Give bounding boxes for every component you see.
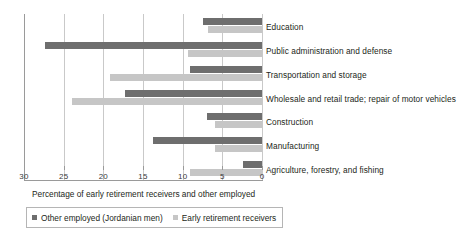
x-tick-label: 30 xyxy=(12,172,36,181)
x-axis-title: Percentage of early retirement receivers… xyxy=(32,189,255,199)
category-label: Construction xyxy=(266,117,313,127)
bar-other-employed xyxy=(203,18,262,25)
bar-other-employed xyxy=(45,42,262,49)
x-tick-mark xyxy=(103,166,104,170)
x-tick-mark xyxy=(262,166,263,170)
x-tick-label: 5 xyxy=(210,172,234,181)
x-tick-mark xyxy=(64,166,65,170)
gridline xyxy=(262,14,263,180)
bar-early-retirement xyxy=(72,98,262,105)
bar-early-retirement xyxy=(215,145,262,152)
legend-item-early-retirement: Early retirement receivers xyxy=(173,213,277,223)
chart-legend: Other employed (Jordanian men) Early ret… xyxy=(26,207,283,228)
legend-label: Early retirement receivers xyxy=(182,213,277,223)
x-tick-label: 10 xyxy=(171,172,195,181)
plot-area xyxy=(24,14,262,180)
bar-other-employed xyxy=(125,90,262,97)
category-label: Education xyxy=(266,22,303,32)
bar-early-retirement xyxy=(215,121,262,128)
legend-swatch-light-icon xyxy=(173,215,178,220)
legend-swatch-dark-icon xyxy=(32,215,37,220)
x-tick-label: 20 xyxy=(91,172,115,181)
bar-other-employed xyxy=(153,137,262,144)
x-tick-label: 25 xyxy=(52,172,76,181)
category-label: Transportation and storage xyxy=(266,70,367,80)
legend-item-other-employed: Other employed (Jordanian men) xyxy=(32,213,163,223)
category-label: Public administration and defense xyxy=(266,46,392,56)
x-tick-mark xyxy=(222,166,223,170)
legend-label: Other employed (Jordanian men) xyxy=(41,213,163,223)
x-tick-label: 15 xyxy=(131,172,155,181)
x-tick-mark xyxy=(24,166,25,170)
bar-early-retirement xyxy=(110,74,262,81)
bar-other-employed xyxy=(243,161,262,168)
x-tick-mark xyxy=(143,166,144,170)
category-label: Agriculture, forestry, and fishing xyxy=(266,165,384,175)
category-label: Wholesale and retail trade; repair of mo… xyxy=(266,94,456,104)
bar-early-retirement xyxy=(188,50,262,57)
y-axis-line xyxy=(24,14,25,180)
x-tick-mark xyxy=(183,166,184,170)
bar-early-retirement xyxy=(208,26,262,33)
bar-other-employed xyxy=(207,113,263,120)
bar-other-employed xyxy=(190,66,262,73)
gridline xyxy=(64,14,65,180)
bar-chart: 302520151050 EducationPublic administrat… xyxy=(0,0,463,240)
category-label: Manufacturing xyxy=(266,141,319,151)
